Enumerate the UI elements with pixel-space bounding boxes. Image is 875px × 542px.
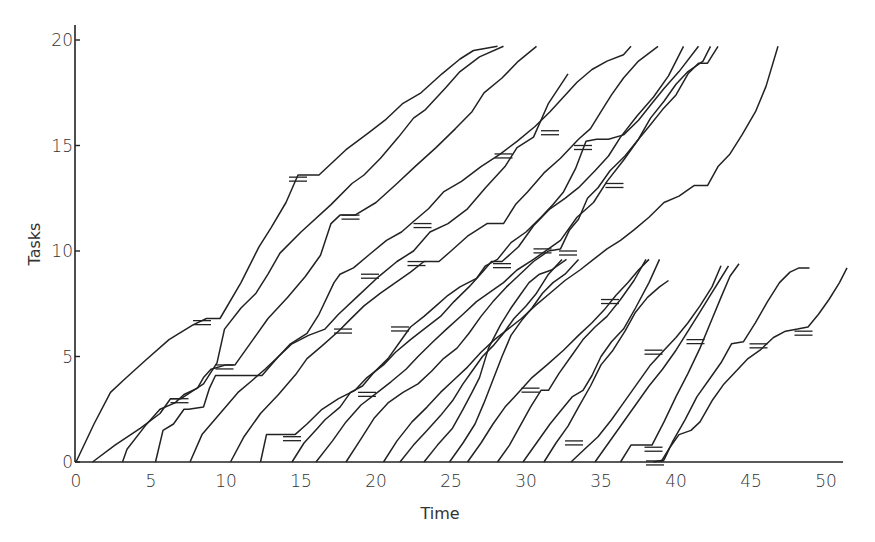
idle-marker bbox=[408, 262, 426, 266]
idle-marker bbox=[334, 329, 352, 333]
idle-marker bbox=[358, 392, 376, 396]
idle-marker bbox=[193, 321, 211, 325]
idle-marker bbox=[687, 340, 705, 344]
x-tick-label: 10 bbox=[215, 471, 237, 491]
idle-marker bbox=[361, 274, 379, 278]
idle-marker bbox=[289, 177, 307, 181]
series-line-14 bbox=[450, 259, 579, 462]
y-tick-label: 10 bbox=[51, 241, 73, 261]
idle-marker bbox=[522, 388, 540, 392]
x-axis-label: Time bbox=[419, 504, 459, 523]
x-tick-label: 5 bbox=[146, 471, 157, 491]
x-tick-label: 20 bbox=[365, 471, 387, 491]
series-line-7 bbox=[261, 46, 684, 462]
x-tick-label: 40 bbox=[665, 471, 687, 491]
task-completion-chart: 05101520 05101520253035404550 Tasks Time bbox=[0, 0, 875, 542]
idle-marker bbox=[414, 224, 432, 228]
series-line-2 bbox=[93, 46, 504, 462]
series-line-10 bbox=[346, 46, 718, 462]
series-line-12 bbox=[400, 259, 562, 462]
series-line-19 bbox=[571, 266, 721, 462]
series-line-6 bbox=[231, 46, 659, 462]
y-tick-label: 5 bbox=[62, 347, 73, 367]
series-line-9 bbox=[316, 46, 711, 462]
series-line-3 bbox=[123, 46, 537, 462]
idle-marker bbox=[795, 331, 813, 335]
x-tick-label: 30 bbox=[515, 471, 537, 491]
y-tick-label: 0 bbox=[62, 452, 73, 472]
idle-marker bbox=[391, 327, 409, 331]
x-tick-label: 15 bbox=[290, 471, 312, 491]
series-curves bbox=[76, 46, 847, 462]
idle-marker bbox=[541, 131, 559, 135]
y-tick-label: 15 bbox=[51, 136, 73, 156]
series-line-17 bbox=[523, 259, 660, 462]
x-ticks: 05101520253035404550 bbox=[71, 471, 837, 491]
idle-marker bbox=[606, 183, 624, 187]
idle-marker bbox=[645, 447, 663, 451]
series-line-8 bbox=[292, 46, 699, 462]
idle-marker bbox=[565, 441, 583, 445]
idle-marker bbox=[493, 264, 511, 268]
idle-marker bbox=[171, 399, 189, 403]
x-tick-label: 50 bbox=[815, 471, 837, 491]
x-tick-label: 0 bbox=[71, 471, 82, 491]
series-line-16 bbox=[498, 259, 647, 462]
series-line-11 bbox=[384, 46, 779, 462]
y-axis-label: Tasks bbox=[25, 223, 44, 267]
idle-marker bbox=[342, 215, 360, 219]
x-tick-label: 35 bbox=[590, 471, 612, 491]
idle-marker bbox=[645, 350, 663, 354]
series-line-15 bbox=[468, 259, 650, 462]
x-tick-label: 25 bbox=[440, 471, 462, 491]
idle-marker bbox=[283, 437, 301, 441]
x-tick-label: 45 bbox=[740, 471, 762, 491]
y-tick-label: 20 bbox=[51, 30, 73, 50]
series-line-20 bbox=[595, 266, 729, 462]
idle-marker bbox=[559, 251, 577, 255]
series-line-5 bbox=[190, 46, 631, 462]
series-line-22 bbox=[654, 268, 810, 462]
series-line-23 bbox=[661, 268, 847, 462]
